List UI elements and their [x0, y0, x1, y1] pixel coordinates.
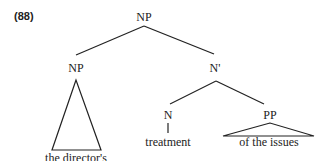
node-np-left: NP: [68, 61, 84, 75]
terminal-of-the-issues: of the issues: [239, 135, 299, 149]
syntax-tree: NP NP the director's N' N treatment PP o…: [0, 0, 329, 161]
node-nbar: N': [210, 61, 221, 75]
edge-nbar-n: [170, 81, 216, 104]
terminal-the-directors: the director's: [45, 151, 107, 161]
terminal-treatment: treatment: [145, 135, 191, 149]
node-n: N: [164, 108, 173, 122]
edge-root-np: [76, 26, 144, 55]
edge-root-nbar: [144, 26, 214, 54]
node-pp: PP: [263, 108, 277, 122]
node-root-np: NP: [136, 10, 152, 24]
edge-nbar-pp: [216, 81, 264, 104]
triangle-np-left: [52, 80, 101, 150]
